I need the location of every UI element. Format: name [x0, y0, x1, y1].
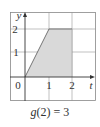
- tick-x-0: 0: [15, 79, 21, 91]
- y-axis-label: y: [16, 9, 22, 21]
- tick-y-2: 2: [12, 23, 18, 35]
- x-axis-label: t: [89, 79, 93, 91]
- shaded-area: [25, 29, 72, 77]
- caption: g(2) = 3: [0, 105, 100, 120]
- tick-x-1: 1: [46, 79, 52, 91]
- tick-x-2: 2: [69, 79, 75, 91]
- chart: 2 1 0 1 2 y t: [0, 0, 100, 105]
- tick-y-1: 1: [13, 46, 19, 58]
- caption-rest: (2) = 3: [37, 105, 70, 119]
